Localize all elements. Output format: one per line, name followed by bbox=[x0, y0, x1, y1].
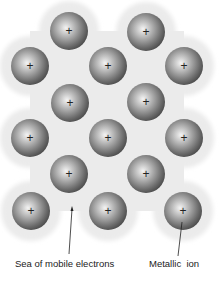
plus-charge-icon: + bbox=[180, 131, 187, 145]
metallic-ion: + bbox=[89, 47, 127, 85]
plus-charge-icon: + bbox=[179, 204, 186, 218]
metallic-ion: + bbox=[11, 47, 49, 85]
metallic-ion: + bbox=[165, 47, 203, 85]
plus-charge-icon: + bbox=[142, 25, 149, 39]
plus-charge-icon: + bbox=[104, 131, 111, 145]
sea-of-electrons-label: Sea of mobile electrons bbox=[15, 258, 114, 269]
plus-charge-icon: + bbox=[104, 204, 111, 218]
metallic-ion: + bbox=[165, 119, 203, 157]
metallic-ion: + bbox=[51, 84, 89, 122]
metallic-ion: + bbox=[164, 192, 202, 230]
metallic-ion: + bbox=[127, 155, 165, 193]
metallic-ion: + bbox=[50, 12, 88, 50]
metallic-ion: + bbox=[12, 192, 50, 230]
plus-charge-icon: + bbox=[26, 131, 33, 145]
plus-charge-icon: + bbox=[142, 167, 149, 181]
metallic-ion-label: Metallic ion bbox=[149, 258, 199, 269]
plus-charge-icon: + bbox=[104, 59, 111, 73]
plus-charge-icon: + bbox=[65, 167, 72, 181]
plus-charge-icon: + bbox=[142, 95, 149, 109]
plus-charge-icon: + bbox=[27, 204, 34, 218]
plus-charge-icon: + bbox=[26, 59, 33, 73]
metallic-ion: + bbox=[127, 83, 165, 121]
plus-charge-icon: + bbox=[180, 59, 187, 73]
plus-charge-icon: + bbox=[65, 24, 72, 38]
metallic-bond-diagram: +++++++++++++++ bbox=[0, 0, 220, 282]
metallic-ion: + bbox=[89, 192, 127, 230]
plus-charge-icon: + bbox=[66, 96, 73, 110]
metallic-ion: + bbox=[11, 119, 49, 157]
metallic-ion: + bbox=[89, 119, 127, 157]
metallic-ion: + bbox=[127, 13, 165, 51]
metallic-ion: + bbox=[50, 155, 88, 193]
sea-pointer-line bbox=[69, 209, 72, 254]
